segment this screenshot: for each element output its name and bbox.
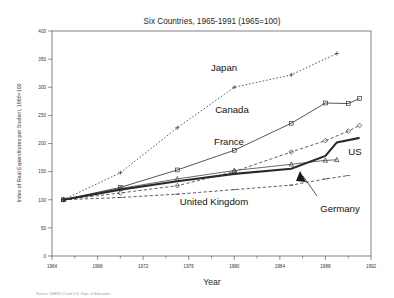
y-tick-label: 350 xyxy=(38,57,46,62)
y-tick-label: 250 xyxy=(38,113,46,118)
y-tick-label: 300 xyxy=(38,85,46,90)
x-tick-label: 1972 xyxy=(138,264,149,269)
chart-title: Six Countries, 1965-1991 (1965=100) xyxy=(144,17,281,26)
x-tick-label: 1976 xyxy=(184,264,195,269)
y-tick-label: 200 xyxy=(38,141,46,146)
x-tick-label: 1992 xyxy=(366,264,377,269)
series-label-france: France xyxy=(214,136,244,147)
series-label-japan: Japan xyxy=(211,62,237,73)
chart-figure: Six Countries, 1965-1991 (1965=100) Inde… xyxy=(0,0,394,298)
x-tick-label: 1968 xyxy=(92,264,103,269)
series-label-canada: Canada xyxy=(215,104,249,115)
y-tick-label: 100 xyxy=(38,198,46,203)
x-tick-label: 1988 xyxy=(320,264,331,269)
y-axis-title: Index of Real Expenditures per Student, … xyxy=(16,83,22,202)
chart-background xyxy=(0,0,394,298)
x-tick-label: 1964 xyxy=(47,264,58,269)
x-tick-label: 1984 xyxy=(275,264,286,269)
y-tick-label: 400 xyxy=(38,29,46,34)
y-tick-label: 50 xyxy=(41,226,47,231)
source-note: Source: UNESCO and U.S. Dept. of Educati… xyxy=(36,292,110,296)
series-label-united-kingdom: United Kingdom xyxy=(180,196,248,207)
line-chart-svg: Six Countries, 1965-1991 (1965=100) Inde… xyxy=(0,0,394,298)
series-label-us: US xyxy=(348,146,361,157)
y-tick-label: 0 xyxy=(43,254,46,259)
x-tick-label: 1980 xyxy=(229,264,240,269)
series-label-germany: Germany xyxy=(320,203,360,214)
y-tick-label: 150 xyxy=(38,169,46,174)
x-axis-title: Year xyxy=(203,277,221,287)
